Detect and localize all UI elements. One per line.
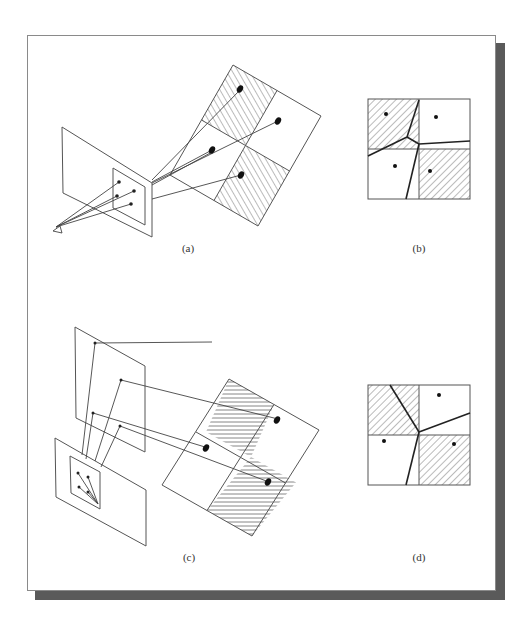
panel-c: (c) xyxy=(55,327,319,564)
image-points xyxy=(77,342,123,494)
hatched-cell xyxy=(207,457,296,536)
hatched-cell xyxy=(368,385,419,435)
tilted-grid-c xyxy=(162,379,319,536)
panel-label-c: (c) xyxy=(183,551,196,564)
back-plane xyxy=(75,327,145,452)
eye-icon xyxy=(53,226,62,233)
panel-label-a: (a) xyxy=(182,242,195,255)
hatched-cell xyxy=(214,146,290,227)
panel-d: (d) xyxy=(368,385,470,564)
hatched-cell xyxy=(419,149,470,199)
hatched-cell xyxy=(202,65,278,146)
hatched-cell xyxy=(206,379,274,457)
panel-a: (a) xyxy=(53,65,321,255)
eye-rays xyxy=(56,182,134,227)
image-points xyxy=(115,180,136,206)
back-plane xyxy=(62,127,152,237)
panel-label-d: (d) xyxy=(413,551,426,564)
panel-label-b: (b) xyxy=(413,242,426,255)
panel-b: (b) xyxy=(368,99,470,255)
figure-canvas: (a) (b) xyxy=(0,0,527,625)
tilted-grid-a xyxy=(170,65,321,226)
hatched-cell xyxy=(419,435,470,485)
